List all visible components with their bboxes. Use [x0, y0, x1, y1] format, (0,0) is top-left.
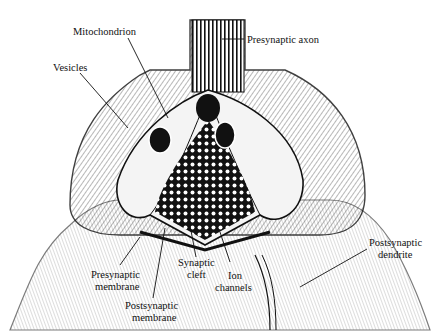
label-ion-channels-line1: Ion: [228, 270, 243, 281]
synapse-diagram: Mitochondrion Presynaptic axon Vesicles …: [0, 0, 444, 335]
label-postsynaptic-dendrite-line2: dendrite: [378, 249, 413, 260]
label-synaptic-cleft-line2: cleft: [187, 269, 206, 280]
mitochondrion-shape-left: [149, 127, 171, 153]
label-postsynaptic-dendrite-line1: Postsynaptic: [369, 237, 422, 248]
label-presynaptic-membrane-line2: membrane: [95, 281, 140, 292]
label-presynaptic-membrane-line1: Presynaptic: [91, 269, 140, 280]
label-ion-channels-line2: channels: [215, 282, 252, 293]
label-presynaptic-axon: Presynaptic axon: [247, 34, 320, 45]
label-mitochondrion: Mitochondrion: [73, 26, 137, 37]
mitochondrion-shape-right: [215, 122, 235, 148]
presynaptic-axon-shape: [192, 20, 244, 92]
label-vesicles: Vesicles: [53, 62, 87, 73]
label-postsynaptic-membrane-line2: membrane: [132, 312, 177, 323]
mitochondrion-shape: [196, 94, 220, 122]
label-synaptic-cleft-line1: Synaptic: [178, 257, 215, 268]
label-postsynaptic-membrane-line1: Postsynaptic: [125, 300, 178, 311]
